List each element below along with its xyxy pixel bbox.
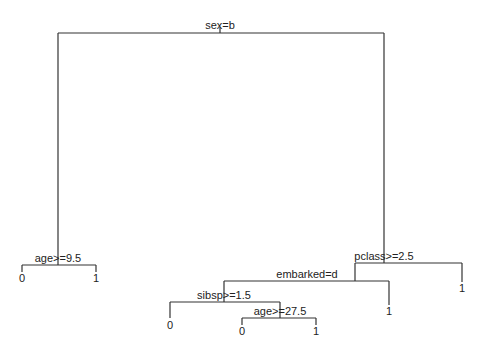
split-label-sibsp: sibsp>=1.5	[197, 289, 251, 301]
split-label-root: sex=b	[205, 19, 235, 31]
tree-svg: sex=b age>=9.5 0 1 pclass>=2.5 1 embarke…	[0, 0, 483, 355]
split-label-embarked: embarked=d	[276, 268, 337, 280]
split-label-pclass: pclass>=2.5	[354, 250, 413, 262]
decision-tree-diagram: sex=b age>=9.5 0 1 pclass>=2.5 1 embarke…	[0, 0, 483, 355]
node-pclass: pclass>=2.5 1	[354, 250, 465, 294]
node-age-9-5: age>=9.5 0 1	[19, 252, 99, 284]
leaf-label: 1	[93, 272, 99, 284]
split-label-age-9-5: age>=9.5	[35, 252, 82, 264]
leaf-label: 0	[19, 272, 25, 284]
leaf-label: 1	[459, 282, 465, 294]
node-root: sex=b	[58, 19, 384, 265]
leaf-label: 1	[386, 305, 392, 317]
node-age-27-5: age>=27.5 0 1	[239, 305, 319, 337]
leaf-label: 1	[313, 325, 319, 337]
leaf-label: 0	[167, 319, 173, 331]
leaf-label: 0	[239, 325, 245, 337]
split-label-age-27-5: age>=27.5	[254, 305, 307, 317]
